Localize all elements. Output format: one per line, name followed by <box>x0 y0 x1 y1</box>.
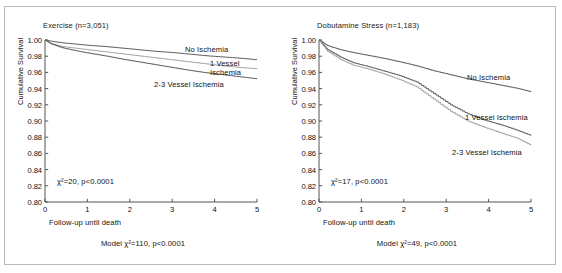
y-tick-label: 0.96 <box>302 68 316 77</box>
curve-label-no-ischemia-right: No Ischemia <box>467 73 510 82</box>
x-tick-label: 4 <box>212 205 216 214</box>
curve-label-one-vessel-left-line2: Ischemia <box>210 68 241 77</box>
y-tick-label: 0.82 <box>302 181 316 190</box>
x-tick-label: 4 <box>486 205 490 214</box>
x-tick-label: 5 <box>255 205 259 214</box>
y-tick-label: 0.84 <box>302 165 316 174</box>
y-tick-label: 0.90 <box>302 117 316 126</box>
x-axis-label-right: Follow-up until death <box>323 218 395 227</box>
chi-square-annotation-right: χ²=17, p<0.0001 <box>331 177 388 186</box>
chi-square-annotation-left: χ²=20, p<0.0001 <box>57 177 114 186</box>
survival-curve <box>319 40 531 92</box>
x-tick-label: 1 <box>359 205 363 214</box>
y-tick-label: 0.98 <box>302 52 316 61</box>
model-caption-right: Model χ²=49, p<0.0001 <box>279 239 555 248</box>
y-tick-label: 0.94 <box>302 84 316 93</box>
y-tick-label: 0.94 <box>28 84 42 93</box>
y-tick-label: 0.90 <box>28 117 42 126</box>
y-axis-label-right: Cumulative Survival <box>290 38 299 105</box>
y-tick-label: 0.92 <box>302 100 316 109</box>
y-tick-label: 0.86 <box>28 149 42 158</box>
y-tick-label: 1.00 <box>302 36 316 45</box>
x-tick-label: 2 <box>128 205 132 214</box>
y-tick-label: 0.80 <box>28 198 42 207</box>
y-tick-label: 0.92 <box>28 100 42 109</box>
y-tick-label: 0.98 <box>28 52 42 61</box>
x-tick-label: 2 <box>402 205 406 214</box>
x-tick-label: 1 <box>85 205 89 214</box>
y-tick-label: 0.82 <box>28 181 42 190</box>
panel-title-exercise: Exercise (n=3,051) <box>43 21 109 30</box>
curve-label-multi-vessel-right: 2-3 Vessel Ischemia <box>452 148 522 157</box>
figure-frame: Exercise (n=3,051) Cumulative Survival 1… <box>4 6 556 265</box>
y-tick-label: 0.88 <box>302 133 316 142</box>
y-tick-label: 0.84 <box>28 165 42 174</box>
x-tick-label: 5 <box>529 205 533 214</box>
curve-label-no-ischemia-left: No Ischemia <box>185 45 228 54</box>
y-tick-label: 0.80 <box>302 198 316 207</box>
curve-label-one-vessel-left-line1: 1 Vessel <box>210 59 240 68</box>
y-tick-label: 0.86 <box>302 149 316 158</box>
x-axis-label-left: Follow-up until death <box>49 218 121 227</box>
y-tick-label: 1.00 <box>28 36 42 45</box>
panel-exercise: Exercise (n=3,051) Cumulative Survival 1… <box>5 7 281 264</box>
curve-label-multi-vessel-left: 2-3 Vessel Ischemia <box>154 80 224 89</box>
x-tick-label: 3 <box>444 205 448 214</box>
survival-curve <box>319 40 531 145</box>
y-axis-label-left: Cumulative Survival <box>16 38 25 105</box>
x-tick-label: 0 <box>43 205 47 214</box>
panel-dobutamine: Dobutamine Stress (n=1,183) Cumulative S… <box>279 7 555 264</box>
y-tick-label: 0.96 <box>28 68 42 77</box>
panel-title-dobutamine: Dobutamine Stress (n=1,183) <box>317 21 419 30</box>
x-tick-label: 3 <box>170 205 174 214</box>
y-tick-label: 0.88 <box>28 133 42 142</box>
curve-label-one-vessel-right: 1 Vessel Ischemia <box>465 113 528 122</box>
model-caption-left: Model χ²=110, p<0.0001 <box>5 239 281 248</box>
x-tick-label: 0 <box>317 205 321 214</box>
